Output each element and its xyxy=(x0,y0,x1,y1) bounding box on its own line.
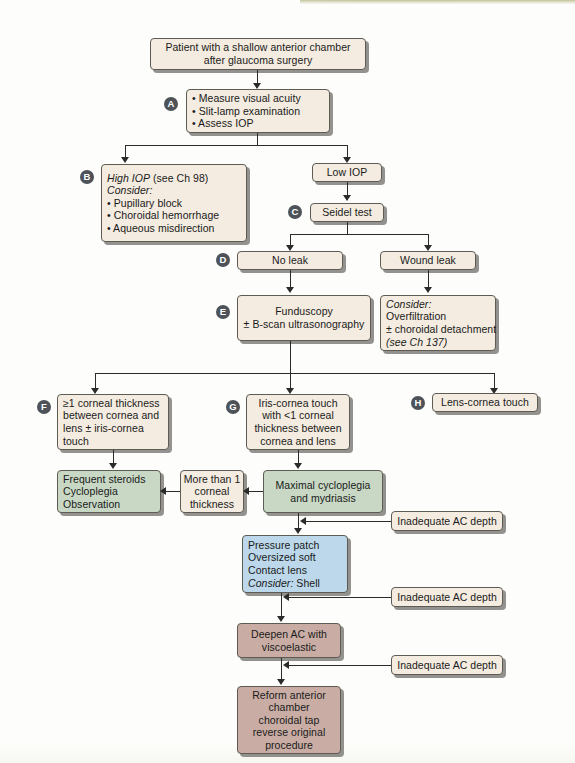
connector-g-to-maxcyclo xyxy=(298,450,299,464)
node-start-line2: after glaucoma surgery xyxy=(204,54,312,67)
node-more-than-one-corneal-thickness: More than 1 corneal thickness xyxy=(180,470,244,513)
node-pressure-patch-shell: Shell xyxy=(293,577,320,589)
node-start-line1: Patient with a shallow anterior chamber xyxy=(165,41,350,54)
node-deepen-ac-line1: Deepen AC with xyxy=(251,628,327,641)
node-b-line1: High IOP (see Ch 98) xyxy=(107,172,208,185)
badge-a: A xyxy=(164,97,178,111)
node-maximal-cycloplegia-line2: and mydriasis xyxy=(290,492,355,505)
node-reform-line4: reverse original xyxy=(253,726,326,739)
connector-patch-to-deepen xyxy=(281,593,282,617)
node-f-line1: ≥1 corneal thickness xyxy=(63,397,160,410)
node-c-label: Seidel test xyxy=(322,206,372,219)
node-overfiltration-line2: Overfiltration xyxy=(386,310,446,323)
node-more-than-one-line2: corneal xyxy=(195,485,230,498)
node-e: Funduscopy ± B-scan ultrasonography xyxy=(237,295,371,341)
badge-f: F xyxy=(37,400,51,414)
arrowhead-maxcyclo-to-patch xyxy=(294,528,302,534)
node-h: Lens-cornea touch xyxy=(432,393,538,412)
node-maximal-cycloplegia: Maximal cycloplegia and mydriasis xyxy=(263,470,383,513)
connector-morethan1-to-steroids xyxy=(165,491,180,492)
node-frequent-steroids: Frequent steroids Cycloplegia Observatio… xyxy=(57,470,161,513)
scan-page-edge-top xyxy=(300,0,575,4)
flowchart-page: Patient with a shallow anterior chamber … xyxy=(0,0,575,763)
node-pressure-patch-line3: Contact lens xyxy=(248,564,307,577)
arrowhead-inadequate3-to-reform xyxy=(283,661,289,669)
node-frequent-steroids-line3: Observation xyxy=(63,498,120,511)
badge-g: G xyxy=(226,400,240,414)
connector-lowiop-to-c xyxy=(347,182,348,196)
connector-inadequate2-to-deepen xyxy=(288,597,391,598)
arrowhead-d-to-e xyxy=(286,287,294,293)
connector-d-to-e xyxy=(290,270,291,288)
node-b: High IOP (see Ch 98) Consider: • Pupilla… xyxy=(101,164,247,242)
node-reform-line3: choroidal tap xyxy=(259,714,320,727)
connector-deepen-to-reform xyxy=(281,658,282,680)
node-more-than-one-line3: thickness xyxy=(190,498,234,511)
node-a-line3: • Assess IOP xyxy=(192,117,253,130)
connector-maxcyclo-to-morethan1 xyxy=(248,491,264,492)
connector-e-to-g xyxy=(290,373,291,389)
connector-inadequate3-to-reform xyxy=(288,665,391,666)
connector-start-to-a xyxy=(257,70,258,84)
node-low-iop-label: Low IOP xyxy=(327,166,368,179)
arrowhead-patch-to-deepen xyxy=(277,616,285,622)
arrowhead-g-to-maxcyclo xyxy=(294,463,302,469)
node-b-line2: Consider: xyxy=(107,184,152,197)
node-deepen-ac: Deepen AC with viscoelastic xyxy=(237,623,341,658)
connector-woundleak-to-overfiltration xyxy=(428,270,429,288)
connector-e-down xyxy=(290,341,291,373)
node-inadequate-ac-depth-1: Inadequate AC depth xyxy=(391,511,503,531)
node-f: ≥1 corneal thickness between cornea and … xyxy=(57,394,169,450)
connector-maxcyclo-to-patch xyxy=(298,513,299,529)
node-pressure-patch-consider: Consider: xyxy=(248,577,293,589)
node-inadequate-ac-depth-1-label: Inadequate AC depth xyxy=(397,515,497,528)
node-low-iop: Low IOP xyxy=(312,163,382,182)
badge-d: D xyxy=(216,253,230,267)
connector-e-to-h xyxy=(494,373,495,389)
arrowhead-maxcyclo-to-morethan1 xyxy=(243,487,249,495)
arrowhead-deepen-to-reform xyxy=(277,679,285,685)
badge-h: H xyxy=(411,396,425,410)
connector-e-split-bar xyxy=(95,373,495,374)
node-frequent-steroids-line1: Frequent steroids xyxy=(63,473,146,486)
node-pressure-patch: Pressure patch Oversized soft Contact le… xyxy=(242,535,348,593)
arrowhead-woundleak-to-overfiltration xyxy=(424,287,432,293)
arrowhead-a-to-b xyxy=(121,157,129,163)
connector-e-to-f xyxy=(95,373,96,389)
node-start: Patient with a shallow anterior chamber … xyxy=(150,38,366,70)
arrowhead-lowiop-to-c xyxy=(343,195,351,201)
badge-c: C xyxy=(288,205,302,219)
node-g-line3: thickness between xyxy=(254,422,341,435)
node-b-line1-title: High IOP xyxy=(107,172,150,184)
connector-a-down xyxy=(257,133,258,145)
connector-c-down xyxy=(347,222,348,234)
node-g: Iris-cornea touch with <1 corneal thickn… xyxy=(246,394,350,450)
arrowhead-f-to-steroids xyxy=(109,463,117,469)
node-wound-leak-label: Wound leak xyxy=(400,254,456,267)
node-wound-leak: Wound leak xyxy=(380,251,476,270)
node-pressure-patch-line2: Oversized soft xyxy=(248,551,316,564)
node-inadequate-ac-depth-2-label: Inadequate AC depth xyxy=(397,591,497,604)
arrowhead-inadequate2-to-deepen xyxy=(283,593,289,601)
node-overfiltration: Consider: Overfiltration ± choroidal det… xyxy=(380,295,496,351)
arrowhead-inadequate1-to-patch xyxy=(300,517,306,525)
node-pressure-patch-line4: Consider: Shell xyxy=(248,577,320,590)
connector-f-to-steroids xyxy=(113,450,114,464)
node-e-line2: ± B-scan ultrasonography xyxy=(244,318,365,331)
node-inadequate-ac-depth-2: Inadequate AC depth xyxy=(391,587,503,607)
node-b-line1-ref: (see Ch 98) xyxy=(150,172,208,184)
node-d: No leak xyxy=(237,251,343,270)
badge-b: B xyxy=(80,170,94,184)
node-overfiltration-line3: ± choroidal detachment xyxy=(386,323,496,336)
badge-e: E xyxy=(216,305,230,319)
node-a: • Measure visual acuity • Slit-lamp exam… xyxy=(186,89,330,133)
node-b-line4: • Choroidal hemorrhage xyxy=(107,209,219,222)
node-deepen-ac-line2: viscoelastic xyxy=(262,641,316,654)
connector-c-split-bar xyxy=(290,234,428,235)
node-g-line1: Iris-cornea touch xyxy=(258,397,337,410)
connector-a-split-bar xyxy=(125,145,348,146)
node-more-than-one-line1: More than 1 xyxy=(184,473,241,486)
node-b-line5: • Aqueous misdirection xyxy=(107,222,215,235)
node-reform-line1: Reform anterior xyxy=(252,689,326,702)
node-f-line2: between cornea and xyxy=(63,409,159,422)
